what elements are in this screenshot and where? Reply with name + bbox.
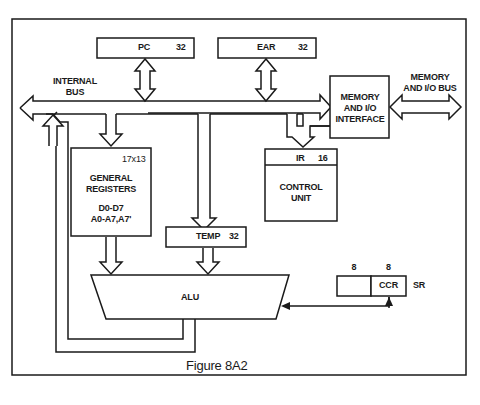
alu-label: ALU [150,292,230,303]
ccr-width: 8 [371,262,406,273]
memory-io-bus-label-1: MEMORY [395,72,465,83]
temp-width: 32 [229,231,239,242]
registers-label-4: A0-A7,A7' [71,214,151,225]
ir-width: 16 [318,153,328,164]
pc-width: 32 [176,42,186,53]
figure-caption: Figure 8A2 [186,360,248,371]
interface-label-2: AND I/O [330,103,390,114]
registers-label-2: REGISTERS [71,184,151,195]
interface-label-3: INTERFACE [330,114,390,125]
registers-size: 17x13 [122,154,146,165]
registers-label-3: D0-D7 [71,203,151,214]
registers-label-1: GENERAL [71,173,151,184]
memory-io-bus-label-2: AND I/O BUS [395,83,465,94]
control-unit-label-2: UNIT [265,193,337,204]
ir-label: IR [296,153,305,164]
sr-label: SR [413,280,425,291]
ccr-label: CCR [371,280,406,291]
sr-upper-width: 8 [337,262,371,273]
pc-label: PC [138,42,150,53]
internal-bus-label-2: BUS [50,87,100,98]
internal-bus-label-1: INTERNAL [50,76,100,87]
temp-label: TEMP [196,231,220,242]
interface-label-1: MEMORY [330,92,390,103]
ear-width: 32 [298,42,308,53]
ear-label: EAR [257,42,275,53]
control-unit-label-1: CONTROL [265,182,337,193]
